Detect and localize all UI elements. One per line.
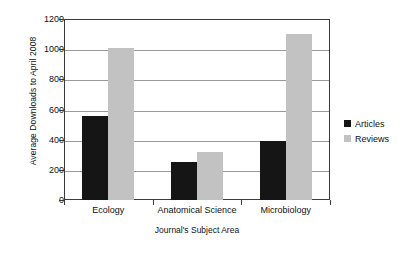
bar-reviews-anatomical-science xyxy=(197,152,223,200)
legend-item-articles: Articles xyxy=(344,116,389,131)
y-axis-tick-label: 800 xyxy=(24,74,64,84)
y-axis-tick-label: 1000 xyxy=(24,44,64,54)
legend-label: Reviews xyxy=(355,134,389,144)
legend-swatch-articles-icon xyxy=(344,120,351,127)
y-axis-tick-label: 400 xyxy=(24,135,64,145)
y-axis-tick-label: 1200 xyxy=(24,14,64,24)
legend-swatch-reviews-icon xyxy=(344,135,351,142)
bar-articles-ecology xyxy=(82,116,108,200)
bar-articles-anatomical-science xyxy=(171,162,197,200)
bar-articles-microbiology xyxy=(260,141,286,200)
y-axis-tick-label: 600 xyxy=(24,105,64,115)
x-axis-category-label: Microbiology xyxy=(226,205,346,215)
legend-label: Articles xyxy=(355,119,385,129)
y-axis-tick-label: 0 xyxy=(24,195,64,205)
bar-reviews-microbiology xyxy=(286,34,312,200)
legend-item-reviews: Reviews xyxy=(344,131,389,146)
bar-chart: Average Downloads to April 2008 02004006… xyxy=(0,0,408,260)
legend: ArticlesReviews xyxy=(344,116,389,146)
bar-reviews-ecology xyxy=(108,48,134,200)
y-axis-tick-label: 200 xyxy=(24,165,64,175)
x-axis-title: Journal's Subject Area xyxy=(64,225,330,235)
bars-layer xyxy=(64,19,330,200)
